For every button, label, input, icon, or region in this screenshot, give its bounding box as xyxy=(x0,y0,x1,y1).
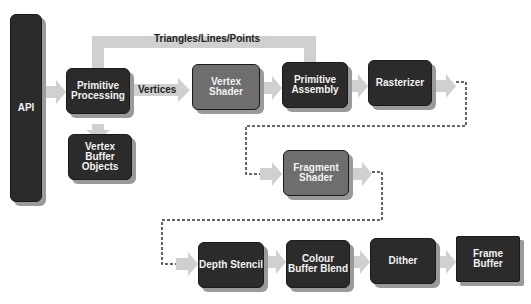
node-label: Dither xyxy=(389,256,418,266)
node-fragment-shader: Fragment Shader xyxy=(283,150,349,196)
node-rasterizer: Rasterizer xyxy=(368,60,432,106)
edge-label-vertices: Vertices xyxy=(138,84,176,95)
node-primitive-processing: Primitive Processing xyxy=(66,68,130,114)
node-dither: Dither xyxy=(370,238,436,284)
node-label: Rasterizer xyxy=(376,78,424,88)
node-frame-buffer: Frame Buffer xyxy=(456,236,520,282)
node-api: API xyxy=(10,14,42,202)
node-label: Fragment Shader xyxy=(284,163,348,183)
node-depth-stencil: Depth Stencil xyxy=(198,242,264,288)
node-label: Vertex Buffer Objects xyxy=(69,142,131,172)
node-vertex-shader: Vertex Shader xyxy=(192,64,260,110)
node-label: API xyxy=(18,103,35,113)
node-label: Primitive Assembly xyxy=(283,75,347,95)
node-vertex-buffer-objects: Vertex Buffer Objects xyxy=(68,134,132,180)
node-label: Vertex Shader xyxy=(193,77,259,97)
node-label: Colour Buffer Blend xyxy=(287,254,349,274)
node-colour-buffer-blend: Colour Buffer Blend xyxy=(286,240,350,288)
node-label: Depth Stencil xyxy=(199,260,263,270)
node-primitive-assembly: Primitive Assembly xyxy=(282,62,348,108)
node-label: Primitive Processing xyxy=(67,81,129,101)
node-label: Frame Buffer xyxy=(457,249,519,269)
edge-label-triangles: Triangles/Lines/Points xyxy=(154,33,260,44)
